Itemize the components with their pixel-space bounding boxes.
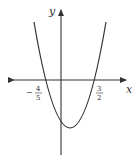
- svg-text:5: 5: [36, 94, 40, 102]
- svg-text:4: 4: [36, 85, 41, 93]
- svg-text:−: −: [26, 88, 33, 97]
- svg-text:2: 2: [97, 94, 101, 102]
- x-axis-label: x: [126, 83, 133, 96]
- parabola-curve: [34, 22, 106, 128]
- svg-text:3: 3: [97, 85, 101, 93]
- root-label-negative: − 4 5: [26, 85, 42, 102]
- parabola-graph: y x − 4 5 3 2: [0, 0, 133, 162]
- root-label-positive: 3 2: [96, 85, 103, 102]
- y-axis-label: y: [48, 5, 56, 18]
